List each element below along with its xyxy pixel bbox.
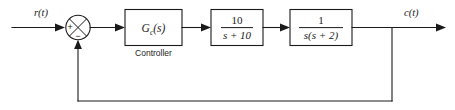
feedback-arrowhead bbox=[74, 40, 82, 49]
block-controller[interactable]: Gc(s) Controller bbox=[125, 10, 182, 59]
lag-input-arrowhead bbox=[201, 24, 211, 32]
block-controller-label-tail: (s) bbox=[153, 22, 165, 35]
block-plant-lag-denominator: s + 10 bbox=[223, 29, 252, 41]
block-plant-lag-numerator: 10 bbox=[232, 14, 244, 26]
block-plant-integrator-denominator: s(s + 2) bbox=[304, 29, 339, 42]
lag-to-integrator-wire-group bbox=[263, 24, 290, 32]
input-signal-group: r(t) bbox=[12, 7, 65, 31]
integrator-input-arrowhead bbox=[280, 24, 290, 32]
output-signal-group: c(t) bbox=[352, 7, 446, 31]
block-diagram-canvas: r(t) + − Gc(s) Controller bbox=[0, 0, 455, 110]
summing-junction-minus-sign: − bbox=[75, 31, 80, 41]
summing-junction-plus-sign: + bbox=[68, 22, 73, 32]
block-plant-integrator[interactable]: 1 s(s + 2) bbox=[290, 10, 352, 46]
block-diagram-svg: r(t) + − Gc(s) Controller bbox=[0, 0, 455, 110]
input-signal-label: r(t) bbox=[34, 7, 49, 19]
block-controller-caption: Controller bbox=[135, 48, 172, 58]
controller-input-arrowhead bbox=[115, 24, 125, 32]
block-plant-integrator-numerator: 1 bbox=[318, 14, 324, 26]
output-arrowhead bbox=[436, 24, 446, 32]
junction-to-controller-wire-group bbox=[90, 24, 125, 32]
output-signal-label: c(t) bbox=[404, 7, 419, 19]
summing-junction[interactable]: + − bbox=[66, 15, 90, 40]
input-arrowhead bbox=[55, 24, 65, 32]
controller-to-lag-wire-group bbox=[182, 24, 211, 32]
block-plant-lag[interactable]: 10 s + 10 bbox=[211, 10, 263, 46]
